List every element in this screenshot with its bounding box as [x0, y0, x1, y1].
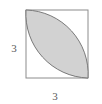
shaded-lens-region [26, 10, 88, 78]
figure-canvas: 3 3 [0, 0, 102, 104]
geometry-figure: 3 3 [0, 0, 102, 104]
side-label-bottom: 3 [52, 90, 58, 102]
side-label-left: 3 [11, 42, 17, 54]
